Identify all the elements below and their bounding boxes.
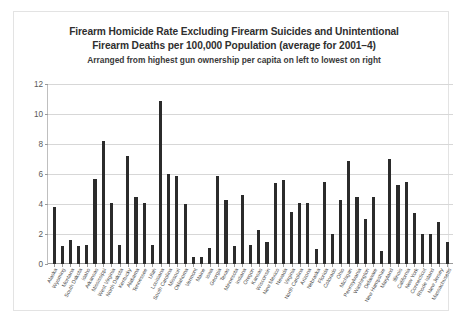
bar (437, 222, 440, 264)
bar-slot (271, 84, 279, 264)
bar (110, 203, 113, 265)
bar-slot (345, 84, 353, 264)
bar-slot (50, 84, 58, 264)
bar (290, 212, 293, 265)
y-tick-label: 0 (38, 260, 43, 269)
bar-slot (247, 84, 255, 264)
bar-slot (304, 84, 312, 264)
bar (159, 101, 162, 265)
x-label-slot: Arizona (303, 267, 311, 319)
bar (405, 182, 408, 265)
bar-slot (410, 84, 418, 264)
bar-slot (173, 84, 181, 264)
bar-slot (263, 84, 271, 264)
bar (200, 257, 203, 265)
bar (380, 251, 383, 265)
bar-slot (181, 84, 189, 264)
bar (184, 204, 187, 264)
bar (53, 207, 56, 264)
bar (241, 195, 244, 264)
bar (69, 240, 72, 264)
bar-slot (222, 84, 230, 264)
bar-slot (337, 84, 345, 264)
bar-slot (361, 84, 369, 264)
bar-slot (140, 84, 148, 264)
bar (233, 246, 236, 264)
bar-slot (427, 84, 435, 264)
plot-area: 024681012 (47, 84, 453, 264)
bar-slot (75, 84, 83, 264)
bar (257, 230, 260, 265)
bar-slot (296, 84, 304, 264)
x-label-slot: Maryland (385, 267, 393, 319)
bar (93, 179, 96, 265)
bar-slot (91, 84, 99, 264)
y-tick-label: 2 (38, 230, 43, 239)
bar-slot (206, 84, 214, 264)
bar-slot (124, 84, 132, 264)
x-label-slot: Massachusetts (443, 267, 451, 319)
bar-slot (443, 84, 451, 264)
bar (102, 141, 105, 264)
bar-slot (402, 84, 410, 264)
bar (192, 257, 195, 265)
bar (118, 245, 121, 265)
bar-slot (230, 84, 238, 264)
bar-slot (156, 84, 164, 264)
bar (175, 176, 178, 265)
bar (143, 203, 146, 265)
bar-slot (386, 84, 394, 264)
bar (134, 197, 137, 265)
x-label-slot: Texas (221, 267, 229, 319)
bar-slot (418, 84, 426, 264)
bar-slot (255, 84, 263, 264)
bar (216, 176, 219, 265)
bar (331, 234, 334, 264)
y-tick-label: 10 (34, 110, 43, 119)
chart-subtitle: Arranged from highest gun ownership per … (34, 54, 434, 67)
bar-slot (353, 84, 361, 264)
bar (298, 203, 301, 265)
bar (85, 245, 88, 265)
bar-slot (369, 84, 377, 264)
bar (274, 183, 277, 264)
bar (167, 174, 170, 264)
bar-series (48, 84, 453, 264)
bar (249, 245, 252, 265)
x-axis-labels: AlaskaWyomingMontanaSouth DakotaIdahoArk… (47, 267, 453, 319)
bar-slot (320, 84, 328, 264)
bar (224, 200, 227, 265)
bar-slot (189, 84, 197, 264)
chart-title-line-2: Firearm Deaths per 100,000 Population (a… (34, 39, 434, 53)
bar-slot (107, 84, 115, 264)
y-tick-label: 6 (38, 170, 43, 179)
bar-slot (238, 84, 246, 264)
bar-slot (394, 84, 402, 264)
y-tick-label: 12 (34, 80, 43, 89)
bar-slot (83, 84, 91, 264)
bar (315, 249, 318, 264)
bar-slot (116, 84, 124, 264)
chart-figure: Firearm Homicide Rate Excluding Firearm … (0, 0, 463, 326)
bar-slot (58, 84, 66, 264)
bar (388, 159, 391, 264)
bar-slot (165, 84, 173, 264)
chart-title-line-1: Firearm Homicide Rate Excluding Firearm … (34, 25, 434, 39)
x-label-slot: Tennessee (139, 267, 147, 319)
bar (421, 234, 424, 264)
y-tick-label: 8 (38, 140, 43, 149)
bar-slot (197, 84, 205, 264)
bar (396, 185, 399, 265)
bar (323, 182, 326, 265)
bar (339, 200, 342, 265)
bar (126, 156, 129, 264)
bar-slot (435, 84, 443, 264)
bar-slot (287, 84, 295, 264)
bar (282, 180, 285, 264)
chart-title-block: Firearm Homicide Rate Excluding Firearm … (34, 25, 434, 67)
bar (372, 197, 375, 265)
bar (306, 203, 309, 265)
bar (77, 246, 80, 264)
bar-slot (99, 84, 107, 264)
y-tick-mark (45, 264, 48, 265)
